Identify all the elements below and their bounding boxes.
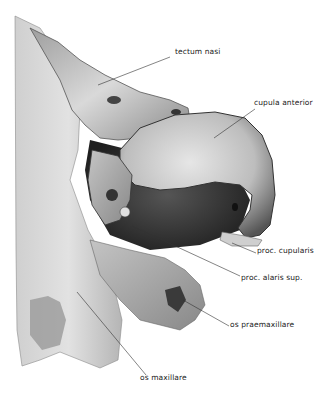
label-proc-cupularis: proc. cupularis <box>257 246 314 255</box>
label-tectum-nasi: tectum nasi <box>175 47 221 56</box>
label-os-maxillare: os maxillare <box>140 373 187 382</box>
anatomical-illustration <box>0 0 329 398</box>
label-cupula-anterior: cupula anterior <box>254 98 313 107</box>
label-proc-alaris-sup: proc. alaris sup. <box>241 273 302 282</box>
label-os-praemaxillare: os praemaxillare <box>230 320 294 329</box>
